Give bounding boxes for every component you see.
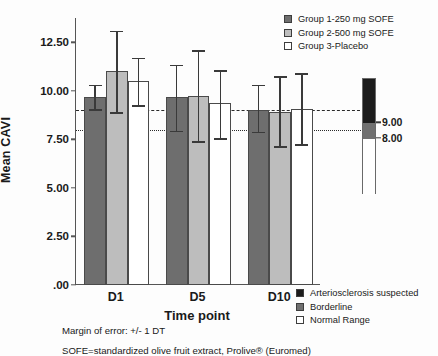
error-bar-D1-series-3 xyxy=(138,58,140,106)
x-axis-tick-D5: D5 xyxy=(190,290,206,304)
y-axis-tick: 2.50 xyxy=(47,230,76,242)
error-cap-lower xyxy=(132,105,145,107)
error-cap-lower xyxy=(170,131,183,133)
error-cap-upper xyxy=(192,50,205,52)
legend-swatch-icon xyxy=(284,29,292,37)
legend-item-label: Arteriosclerosis suspected xyxy=(310,288,419,298)
error-cap-upper xyxy=(274,76,287,78)
error-cap-lower xyxy=(192,141,205,143)
legend-swatch-icon xyxy=(296,303,304,311)
note-margin-of-error: Margin of error: +/- 1 DT xyxy=(62,325,165,336)
legend-item-label: Borderline xyxy=(310,302,352,312)
plot-inner xyxy=(76,18,320,284)
y-axis-tick: 12.50 xyxy=(40,36,76,48)
x-axis-label: Time point xyxy=(164,308,229,323)
legend-item-range-2: Borderline xyxy=(296,302,419,312)
scale-segment-1 xyxy=(363,79,375,123)
error-cap-upper xyxy=(110,31,123,33)
legend-item-label: Group 2-500 mg SOFE xyxy=(298,28,394,38)
scale-tick-label-9-00: 9.00 xyxy=(382,116,402,128)
x-axis-tick-D1: D1 xyxy=(108,290,124,304)
legend-item-label: Group 3-Placebo xyxy=(298,41,368,51)
error-cap-lower xyxy=(252,132,265,134)
scale-segment-2 xyxy=(363,123,375,139)
note-sofe-definition: SOFE=standardized olive fruit extract, P… xyxy=(62,345,311,356)
legend-item-range-1: Arteriosclerosis suspected xyxy=(296,288,419,298)
legend-swatch-icon xyxy=(296,289,304,297)
error-cap-lower xyxy=(89,109,102,111)
legend-item-group-3: Group 3-Placebo xyxy=(284,41,394,51)
scale-tick-mark xyxy=(376,122,381,123)
error-cap-upper xyxy=(214,70,227,72)
legend-groups: Group 1-250 mg SOFEGroup 2-500 mg SOFEGr… xyxy=(284,14,394,55)
y-axis-tick: 10.00 xyxy=(40,85,76,97)
legend-item-label: Group 1-250 mg SOFE xyxy=(298,14,394,24)
y-axis-tick: 5.00 xyxy=(47,182,76,194)
bar-D1-series-3 xyxy=(128,81,150,285)
legend-swatch-icon xyxy=(296,316,304,324)
reference-scale-bar xyxy=(362,78,376,194)
error-bar-D5-series-3 xyxy=(220,70,222,138)
error-cap-lower xyxy=(274,146,287,148)
error-bar-D10-series-2 xyxy=(279,76,281,146)
error-bar-D1-series-2 xyxy=(116,31,118,113)
legend-swatch-icon xyxy=(284,15,292,23)
error-bar-D5-series-1 xyxy=(176,65,178,131)
y-axis-tick: .00 xyxy=(53,279,76,291)
error-cap-lower xyxy=(295,144,308,146)
plot-area: .002.505.007.5010.0012.50 xyxy=(75,18,320,285)
chart-page: Mean CAVI .002.505.007.5010.0012.50 D1D5… xyxy=(0,0,438,356)
legend-item-group-1: Group 1-250 mg SOFE xyxy=(284,14,394,24)
legend-item-group-2: Group 2-500 mg SOFE xyxy=(284,28,394,38)
legend-item-range-3: Normal Range xyxy=(296,315,419,325)
error-cap-upper xyxy=(89,85,102,87)
error-cap-upper xyxy=(132,58,145,60)
y-axis-tick: 7.50 xyxy=(47,133,76,145)
legend-swatch-icon xyxy=(284,42,292,50)
error-cap-lower xyxy=(214,138,227,140)
legend-ranges: Arteriosclerosis suspectedBorderlineNorm… xyxy=(296,288,419,329)
scale-tick-mark xyxy=(376,137,381,138)
bar-D1-series-1 xyxy=(84,97,106,285)
error-bar-D10-series-1 xyxy=(258,85,260,132)
scale-segment-3 xyxy=(363,139,375,195)
x-axis-tick-D10: D10 xyxy=(268,290,291,304)
scale-tick-label-8-00: 8.00 xyxy=(382,132,402,144)
error-cap-upper xyxy=(295,73,308,75)
error-bar-D10-series-3 xyxy=(301,73,303,144)
y-axis-label: Mean CAVI xyxy=(0,117,13,183)
legend-item-label: Normal Range xyxy=(310,315,370,325)
bar-D10-series-1 xyxy=(248,110,270,285)
error-bar-D5-series-2 xyxy=(198,50,200,141)
error-cap-lower xyxy=(110,112,123,114)
error-bar-D1-series-1 xyxy=(94,85,96,109)
error-cap-upper xyxy=(252,85,265,87)
error-cap-upper xyxy=(170,65,183,67)
